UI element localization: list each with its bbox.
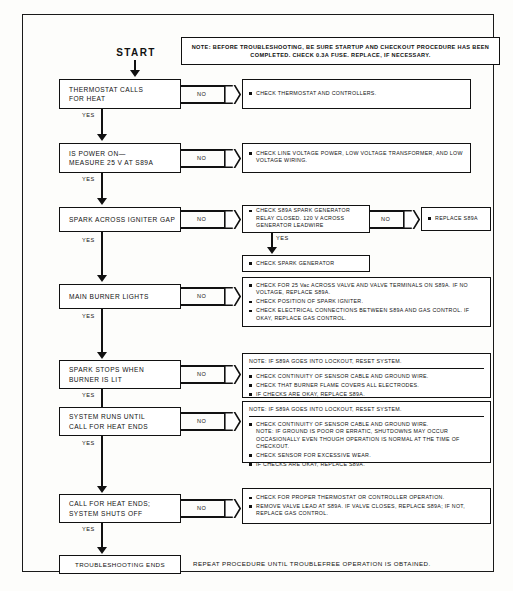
flowchart-frame: START NOTE: BEFORE TROUBLESHOOTING, BE S… — [22, 14, 494, 572]
decision-power-text: IS POWER ON— MEASURE 25 V AT S89A — [69, 149, 153, 168]
yes-arrow-spark-generator — [267, 247, 277, 254]
yes-line-spark-gap — [101, 232, 103, 277]
decision-thermostat-text: THERMOSTAT CALLS FOR HEAT — [69, 85, 143, 104]
no-arrow-spark-stops: NO — [181, 365, 241, 384]
top-note-box: NOTE: BEFORE TROUBLESHOOTING, BE SURE ST… — [181, 37, 500, 65]
decision-spark-gap: SPARK ACROSS IGNITER GAP — [59, 207, 181, 232]
decision-main-burner-text: MAIN BURNER LIGHTS — [69, 292, 149, 302]
yes-arrow-power — [97, 198, 107, 205]
start-connector-arrow — [130, 70, 140, 77]
action-main-burner: CHECK FOR 25 Vac ACROSS VALVE AND VALVE … — [242, 277, 491, 327]
action-call-ends: CHECK FOR PROPER THERMOSTAT OR CONTROLLE… — [242, 488, 491, 524]
end-instruction: REPEAT PROCEDURE UNTIL TROUBLEFREE OPERA… — [193, 560, 431, 567]
end-box: TROUBLESHOOTING ENDS — [59, 555, 181, 574]
yes-line-call-ends — [101, 523, 103, 549]
no-arrow-thermostat: NO — [181, 85, 241, 104]
yes-label-main-burner: YES — [82, 313, 95, 319]
decision-call-ends: CALL FOR HEAT ENDS; SYSTEM SHUTS OFF — [59, 494, 181, 523]
no-arrow-power: NO — [181, 149, 241, 168]
yes-arrow-system-runs — [97, 486, 107, 493]
action-check-spark-generator: CHECK SPARK GENERATOR — [242, 255, 370, 272]
action-system-runs: NOTE: IF S89A GOES INTO LOCKOUT, RESET S… — [242, 401, 491, 463]
no-arrow-spark-gap: NO — [181, 210, 241, 229]
action-replace-s89a: REPLACE S89A — [421, 207, 491, 231]
yes-arrow-spark-gap — [97, 275, 107, 282]
yes-label-spark-stops: YES — [82, 392, 95, 398]
yes-label-spark-gap: YES — [82, 237, 95, 243]
action-thermostat: CHECK THERMOSTAT AND CONTROLLERS. — [242, 79, 471, 109]
end-box-label: TROUBLESHOOTING ENDS — [75, 560, 165, 570]
yes-label-power: YES — [82, 176, 95, 182]
yes-arrow-call-ends — [97, 547, 107, 554]
decision-call-ends-text: CALL FOR HEAT ENDS; SYSTEM SHUTS OFF — [69, 499, 150, 518]
decision-spark-gap-text: SPARK ACROSS IGNITER GAP — [69, 215, 175, 225]
yes-line-main-burner — [101, 309, 103, 354]
decision-thermostat: THERMOSTAT CALLS FOR HEAT — [59, 79, 181, 109]
action-power: CHECK LINE VOLTAGE POWER, LOW VOLTAGE TR… — [242, 143, 471, 173]
no-arrow-replace-s89a: NO — [370, 210, 420, 229]
decision-power: IS POWER ON— MEASURE 25 V AT S89A — [59, 143, 181, 173]
action-spark-stops: NOTE: IF S89A GOES INTO LOCKOUT, RESET S… — [242, 353, 491, 398]
no-arrow-system-runs: NO — [181, 412, 241, 431]
no-arrow-call-ends: NO — [181, 499, 241, 518]
yes-arrow-thermostat — [97, 134, 107, 141]
decision-spark-stops-text: SPARK STOPS WHEN BURNER IS LIT — [69, 365, 144, 384]
decision-system-runs: SYSTEM RUNS UNTIL CALL FOR HEAT ENDS — [59, 407, 181, 436]
decision-system-runs-text: SYSTEM RUNS UNTIL CALL FOR HEAT ENDS — [69, 412, 148, 431]
start-label: START — [89, 47, 183, 58]
yes-label-spark-generator: YES — [276, 235, 289, 241]
decision-spark-stops: SPARK STOPS WHEN BURNER IS LIT — [59, 360, 181, 389]
yes-label-system-runs: YES — [82, 440, 95, 446]
no-arrow-main-burner: NO — [181, 287, 241, 306]
yes-arrow-main-burner — [97, 352, 107, 359]
decision-main-burner: MAIN BURNER LIGHTS — [59, 284, 181, 309]
action-spark-generator-relay: CHECK S89A SPARK GENERATOR RELAY CLOSED.… — [242, 205, 370, 233]
yes-line-thermostat — [101, 109, 103, 136]
yes-line-system-runs — [101, 436, 103, 488]
yes-line-power — [101, 173, 103, 200]
yes-label-call-ends: YES — [82, 526, 95, 532]
yes-label-thermostat: YES — [82, 112, 95, 118]
top-note-text: NOTE: BEFORE TROUBLESHOOTING, BE SURE ST… — [182, 43, 499, 59]
